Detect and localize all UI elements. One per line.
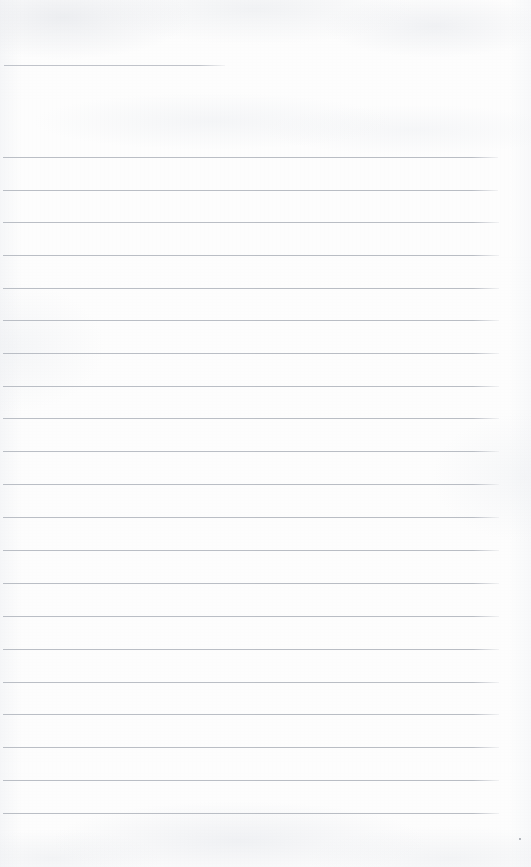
rule-9 [3, 418, 499, 419]
rule-18 [3, 714, 499, 715]
rule-5 [3, 288, 499, 289]
rule-21 [3, 813, 499, 814]
speck-bottom-right [519, 838, 521, 840]
rule-4 [3, 255, 499, 256]
rule-7 [3, 353, 499, 354]
rule-15 [3, 616, 499, 617]
rule-3 [3, 222, 499, 223]
paper-grain-overlay [0, 0, 531, 867]
rule-14 [3, 583, 499, 584]
rule-19 [3, 747, 499, 748]
rule-17 [3, 682, 499, 683]
rule-16 [3, 649, 499, 650]
rule-2 [3, 190, 498, 191]
rule-11 [3, 484, 499, 485]
rule-1 [3, 157, 498, 158]
rule-20 [3, 780, 499, 781]
rule-6 [3, 320, 499, 321]
scanned-page [0, 0, 531, 867]
rule-10 [3, 451, 499, 452]
rule-8 [3, 386, 499, 387]
rule-13 [3, 550, 499, 551]
rule-partial-top [4, 65, 225, 66]
rule-12 [3, 517, 499, 518]
